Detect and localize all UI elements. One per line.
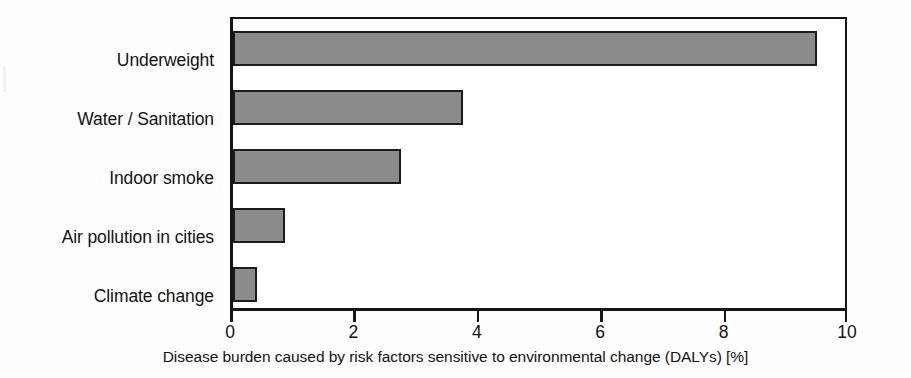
bar-climate-change: [233, 267, 257, 302]
bar-indoor-smoke: [233, 149, 401, 184]
x-axis-tick-labels: 0246810: [230, 322, 847, 346]
plot-area: [230, 17, 847, 311]
x-tick-8: [724, 311, 727, 322]
x-tick-label-2: 2: [349, 322, 359, 342]
x-tick-10: [845, 311, 848, 322]
bar-chart-figure: Underweight Water / Sanitation Indoor sm…: [0, 0, 911, 378]
bar-underweight: [233, 31, 817, 66]
x-tick-label-8: 8: [719, 322, 729, 342]
x-tick-label-4: 4: [472, 322, 482, 342]
category-axis-labels: Underweight Water / Sanitation Indoor sm…: [0, 17, 222, 311]
x-tick-4: [477, 311, 480, 322]
x-axis-title: Disease burden caused by risk factors se…: [0, 348, 911, 366]
x-tick-label-0: 0: [225, 322, 235, 342]
category-label-climate-change: Climate change: [94, 288, 214, 306]
bar-water-sanitation: [233, 90, 463, 125]
bar-air-pollution-in-cities: [233, 208, 285, 243]
category-label-underweight: Underweight: [117, 52, 214, 70]
category-label-indoor-smoke: Indoor smoke: [109, 170, 214, 188]
category-label-air-pollution-in-cities: Air pollution in cities: [62, 229, 214, 247]
x-tick-label-10: 10: [837, 322, 856, 342]
x-tick-0: [230, 311, 233, 322]
x-tick-2: [353, 311, 356, 322]
x-tick-6: [600, 311, 603, 322]
x-tick-label-6: 6: [595, 322, 605, 342]
category-label-water-sanitation: Water / Sanitation: [77, 111, 214, 129]
